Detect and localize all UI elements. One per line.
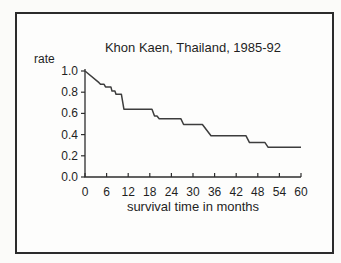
y-tick-label: 1.0 <box>61 64 78 78</box>
survival-chart: 061218243036424854601.00.80.60.40.20.0 <box>0 0 341 263</box>
survival-curve <box>85 71 301 147</box>
x-tick-label: 24 <box>165 185 179 199</box>
x-tick-label: 54 <box>273 185 287 199</box>
x-tick-label: 30 <box>186 185 200 199</box>
x-tick-label: 36 <box>208 185 222 199</box>
x-tick-label: 6 <box>103 185 110 199</box>
y-tick-label: 0.4 <box>61 128 78 142</box>
y-tick-label: 0.8 <box>61 85 78 99</box>
x-tick-label: 60 <box>294 185 308 199</box>
y-tick-label: 0.0 <box>61 170 78 184</box>
x-tick-label: 18 <box>143 185 157 199</box>
y-tick-label: 0.2 <box>61 149 78 163</box>
x-tick-label: 0 <box>82 185 89 199</box>
figure-page: Khon Kaen, Thailand, 1985-92 rate surviv… <box>0 0 341 263</box>
axis-lines <box>85 69 301 177</box>
y-tick-label: 0.6 <box>61 106 78 120</box>
x-tick-label: 42 <box>230 185 244 199</box>
x-tick-label: 12 <box>122 185 136 199</box>
x-tick-label: 48 <box>251 185 265 199</box>
